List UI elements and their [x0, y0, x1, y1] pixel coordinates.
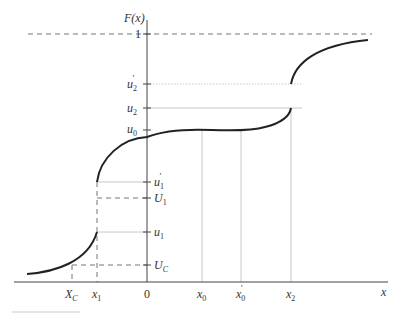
- label-u2p: u2′: [127, 73, 137, 93]
- cdf-curve: [27, 40, 368, 274]
- label-zero: 0: [144, 287, 150, 301]
- label-u0: u0: [127, 122, 137, 138]
- label-x1: x1: [91, 287, 101, 303]
- curve-segment-2: [97, 108, 291, 182]
- curve-segment-3: [291, 40, 368, 84]
- label-U1: U1: [154, 191, 167, 207]
- y-axis-label: F(x): [123, 11, 145, 25]
- label-u1p: u1′: [154, 171, 164, 191]
- label-XC: XC: [64, 287, 78, 303]
- dashed-lines: [28, 34, 372, 282]
- label-x0: x0: [196, 287, 206, 303]
- label-u1: u1: [154, 225, 164, 241]
- cdf-diagram: F(x) 1 u2′ u2 u0 u1′ U1 u1 UC XC x1 0 x0…: [0, 0, 399, 313]
- x-axis-label: x: [380, 285, 387, 299]
- label-u2: u2: [127, 101, 137, 117]
- axes: [14, 20, 388, 282]
- label-one: 1: [135, 27, 141, 41]
- label-x0p: x0′: [235, 283, 245, 303]
- label-UC: UC: [154, 258, 169, 274]
- label-x2: x2: [285, 287, 295, 303]
- curve-segment-1: [27, 232, 97, 274]
